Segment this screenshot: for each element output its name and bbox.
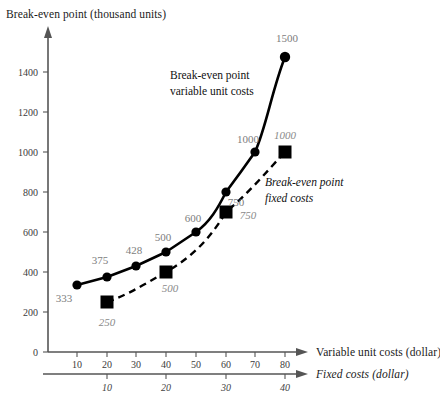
x-tick-label-70: 70 [250, 359, 260, 370]
annotation-variable-unit-costs: Break-even point variable unit costs [170, 69, 254, 97]
note-fixed-line1: Break-even point [265, 176, 344, 189]
x-axis-primary-group: 10 20 30 40 50 60 70 80 Variable unit co… [48, 346, 440, 370]
marker-variable-1500 [280, 52, 290, 62]
note-fixed-line2: fixed costs [265, 192, 314, 205]
x2-tick-label-40: 40 [280, 382, 290, 393]
break-even-chart: 0 200 400 600 800 1000 1200 1400 Break-e… [0, 0, 440, 410]
x-axis-secondary-arrow [296, 370, 308, 378]
x-tick-label-40: 40 [161, 359, 171, 370]
point-label-variable-375: 375 [92, 254, 109, 266]
x-tick-label-80: 80 [280, 359, 290, 370]
marker-fixed-1000 [279, 146, 292, 159]
x2-tick-label-20: 20 [161, 382, 171, 393]
y-tick-label-1000: 1000 [18, 147, 38, 158]
marker-variable-375 [102, 272, 111, 281]
marker-variable-1000 [250, 147, 259, 156]
note-variable-line1: Break-even point [170, 69, 250, 82]
y-tick-label-600: 600 [23, 227, 38, 238]
x2-tick-label-10: 10 [102, 382, 112, 393]
point-label-variable-750: 750 [228, 196, 245, 208]
point-label-variable-1000: 1000 [237, 133, 260, 145]
y-tick-label-1400: 1400 [18, 67, 38, 78]
chart-canvas: 0 200 400 600 800 1000 1200 1400 Break-e… [0, 0, 440, 410]
marker-variable-600 [191, 227, 200, 236]
point-label-variable-500: 500 [155, 231, 172, 243]
y-tick-label-0: 0 [33, 347, 38, 358]
point-label-fixed-750: 750 [240, 209, 257, 221]
point-label-variable-1500: 1500 [276, 32, 299, 44]
marker-variable-428 [131, 261, 140, 270]
x-tick-label-60: 60 [221, 359, 231, 370]
annotation-fixed-costs: Break-even point fixed costs [265, 176, 344, 205]
x-tick-label-10: 10 [72, 359, 82, 370]
x-axis-secondary-group: 10 20 30 40 Fixed costs (dollar) [43, 368, 409, 393]
y-tick-label-800: 800 [23, 187, 38, 198]
x-tick-label-20: 20 [102, 359, 112, 370]
point-label-variable-600: 600 [185, 212, 202, 224]
fixed-costs-curve [107, 152, 285, 302]
point-label-fixed-1000: 1000 [274, 129, 297, 141]
y-axis-title: Break-even point (thousand units) [6, 8, 166, 21]
y-tick-label-400: 400 [23, 267, 38, 278]
point-label-variable-333: 333 [56, 292, 73, 304]
note-variable-line2: variable unit costs [170, 85, 254, 97]
y-tick-label-1200: 1200 [18, 107, 38, 118]
point-label-variable-428: 428 [126, 244, 143, 256]
point-label-fixed-250: 250 [99, 316, 116, 328]
x-axis-primary-arrow [296, 348, 308, 356]
x-axis-primary-title: Variable unit costs (dollar) [316, 346, 440, 359]
x-tick-label-50: 50 [191, 359, 201, 370]
y-tick-label-200: 200 [23, 307, 38, 318]
x2-tick-label-30: 30 [220, 382, 231, 393]
x-axis-secondary-title: Fixed costs (dollar) [315, 368, 409, 381]
y-axis-arrow [44, 26, 52, 38]
y-axis-group: 0 200 400 600 800 1000 1200 1400 Break-e… [6, 8, 166, 358]
point-label-fixed-500: 500 [162, 282, 179, 294]
marker-fixed-250 [101, 296, 114, 309]
marker-variable-333 [72, 280, 81, 289]
marker-fixed-500 [160, 266, 173, 279]
marker-variable-500 [161, 247, 170, 256]
x-tick-label-30: 30 [131, 359, 141, 370]
